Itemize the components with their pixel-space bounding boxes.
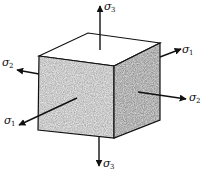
sigma2-left-arrow xyxy=(17,70,39,74)
svg-text:1: 1 xyxy=(11,120,15,128)
cube-front-face-texture xyxy=(38,56,114,138)
sigma1-back-arrow xyxy=(160,49,181,57)
svg-text:3: 3 xyxy=(111,6,115,14)
svg-text:3: 3 xyxy=(110,163,114,171)
svg-text:1: 1 xyxy=(189,49,193,57)
sigma2-left-label: σ 2 xyxy=(2,56,13,70)
svg-text:2: 2 xyxy=(196,97,200,105)
stress-cube-diagram: σ 3 σ 3 σ 2 σ 2 σ 1 σ 1 xyxy=(0,0,202,173)
sigma1-front-label: σ 1 xyxy=(4,114,15,128)
sigma3-top-label: σ 3 xyxy=(104,0,115,14)
sigma3-bottom-label: σ 3 xyxy=(103,157,114,171)
svg-text:2: 2 xyxy=(9,62,13,70)
sigma2-right-label: σ 2 xyxy=(189,91,200,105)
sigma1-back-label: σ 1 xyxy=(182,43,193,57)
